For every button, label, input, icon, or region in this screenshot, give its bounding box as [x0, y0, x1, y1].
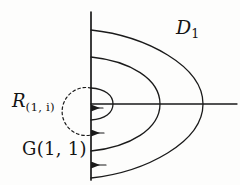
label-region-r-subscript: (1, i): [26, 100, 55, 114]
label-domain-d1-base: D: [176, 16, 191, 38]
math-figure: D1 R(1, i) G(1, 1): [0, 0, 240, 185]
dashed-semicircle: [62, 88, 91, 136]
label-region-r-base: R: [12, 90, 26, 111]
label-group-g-text: G(1, 1): [22, 138, 87, 159]
label-group-g: G(1, 1): [22, 140, 87, 158]
label-region-r: R(1, i): [12, 92, 55, 110]
label-domain-d1-subscript: 1: [191, 26, 199, 41]
label-domain-d1: D1: [176, 18, 199, 37]
